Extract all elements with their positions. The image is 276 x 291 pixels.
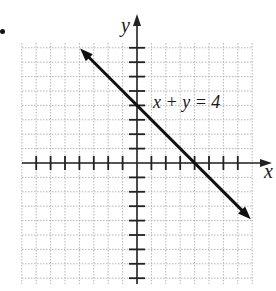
coordinate-graph [0,0,276,291]
y-axis-label: y [121,14,130,37]
x-axis-label: x [264,160,273,183]
equation-label: x + y = 4 [153,92,220,113]
y-axis-arrow-icon [133,14,141,26]
